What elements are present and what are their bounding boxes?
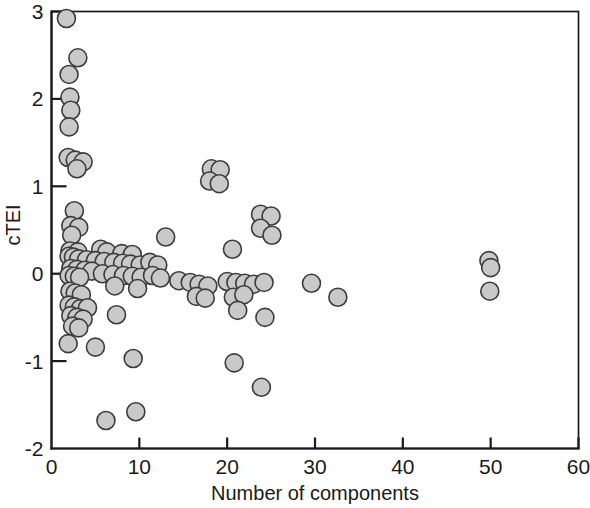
x-tick-label-50: 50	[479, 455, 502, 478]
x-tick-label-0: 0	[46, 455, 58, 478]
data-point	[255, 273, 273, 291]
data-point	[157, 228, 175, 246]
data-point	[256, 308, 274, 326]
data-point	[97, 412, 115, 430]
data-points	[57, 9, 499, 429]
data-point	[223, 240, 241, 258]
data-point	[68, 160, 86, 178]
data-point	[60, 65, 78, 83]
y-tick-label-1: 1	[32, 175, 44, 198]
x-tick-label-30: 30	[303, 455, 326, 478]
plot-box	[52, 12, 579, 449]
scatter-plot-figure: 0102030405060-2-10123 Number of componen…	[0, 0, 590, 508]
data-point	[302, 274, 320, 292]
data-point	[59, 335, 77, 353]
data-point	[60, 118, 78, 136]
x-tick-label-20: 20	[215, 455, 238, 478]
y-tick-label-2: 2	[32, 87, 44, 110]
data-point	[106, 277, 124, 295]
data-point	[329, 288, 347, 306]
data-point	[57, 9, 75, 27]
data-point	[108, 306, 126, 324]
plot-frame	[52, 12, 579, 449]
data-point	[210, 175, 228, 193]
x-axis-title: Number of components	[211, 482, 419, 504]
data-point	[481, 282, 499, 300]
y-tick-label-3: 3	[32, 0, 44, 23]
data-point	[196, 289, 214, 307]
y-tick-label--2: -2	[25, 437, 44, 460]
x-tick-label-40: 40	[391, 455, 414, 478]
axis-ticks	[52, 12, 579, 449]
data-point	[229, 301, 247, 319]
data-point	[151, 269, 169, 287]
y-tick-label--1: -1	[25, 350, 44, 373]
data-point	[127, 403, 145, 421]
data-point	[482, 259, 500, 277]
y-axis-title: cTEI	[2, 204, 24, 245]
y-tick-label-0: 0	[32, 262, 44, 285]
data-point	[86, 338, 104, 356]
data-point	[129, 280, 147, 298]
data-point	[62, 101, 80, 119]
data-point	[263, 226, 281, 244]
plot-canvas: 0102030405060-2-10123 Number of componen…	[0, 0, 590, 508]
data-point	[252, 378, 270, 396]
data-point	[124, 349, 142, 367]
data-point	[70, 319, 88, 337]
data-point	[69, 49, 87, 67]
x-tick-label-10: 10	[128, 455, 151, 478]
data-point	[225, 354, 243, 372]
axis-tick-labels: 0102030405060-2-10123	[25, 0, 590, 478]
x-tick-label-60: 60	[567, 455, 590, 478]
